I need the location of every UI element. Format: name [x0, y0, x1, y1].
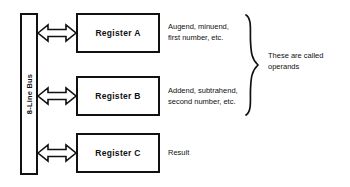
register-c-box: Register C — [76, 133, 160, 173]
register-a-note: Augend, minuend, first number, etc. — [168, 22, 229, 43]
register-b-box: Register B — [76, 76, 160, 116]
double-arrow-bus-register-a — [37, 23, 77, 43]
bus-rectangle: 8-Line Bus — [20, 13, 38, 175]
register-c-label: Register C — [95, 148, 141, 158]
double-arrow-icon — [37, 23, 77, 43]
double-arrow-icon — [37, 86, 77, 106]
double-arrow-bus-register-b — [37, 86, 77, 106]
operands-note: These are called operands — [268, 51, 323, 72]
double-arrow-bus-register-c — [37, 143, 77, 163]
curly-brace-icon — [242, 14, 264, 116]
register-a-label: Register A — [95, 28, 140, 38]
register-c-note: Result — [168, 148, 189, 159]
register-b-note: Addend, subtrahend, second number, etc. — [168, 86, 238, 107]
double-arrow-icon — [37, 143, 77, 163]
diagram-canvas: 8-Line Bus Register A Register B Registe… — [0, 0, 350, 187]
curly-brace — [242, 14, 264, 116]
register-a-box: Register A — [76, 13, 160, 53]
bus-label: 8-Line Bus — [25, 74, 34, 114]
register-b-label: Register B — [95, 91, 141, 101]
